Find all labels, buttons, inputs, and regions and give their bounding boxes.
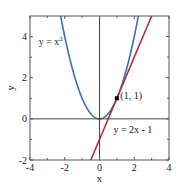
y-tick-label: 4: [22, 31, 27, 42]
points: [115, 96, 119, 100]
x-tick-label: 2: [132, 162, 137, 173]
annotations: y = x2(1, 1)y = 2x - 1: [39, 35, 153, 135]
x-tick-label: -4: [26, 162, 34, 173]
chart: -4-2024-2024 y = x2(1, 1)y = 2x - 1 x y: [0, 0, 182, 189]
annotation-2: y = 2x - 1: [113, 124, 152, 135]
y-tick-label: 2: [22, 72, 27, 83]
curves: [58, 0, 152, 160]
x-tick-label: 4: [167, 162, 172, 173]
y-tick-label: -2: [19, 155, 27, 166]
x-tick-label: -2: [61, 162, 69, 173]
annotation-1: (1, 1): [120, 90, 142, 102]
x-axis-label: x: [97, 172, 103, 184]
annotation-0: y = x2: [39, 35, 64, 47]
plot-area: -4-2024-2024 y = x2(1, 1)y = 2x - 1 x y: [0, 0, 182, 189]
y-axis-label: y: [4, 85, 16, 91]
y-tick-label: 0: [22, 113, 27, 124]
point-marker: [115, 96, 119, 100]
